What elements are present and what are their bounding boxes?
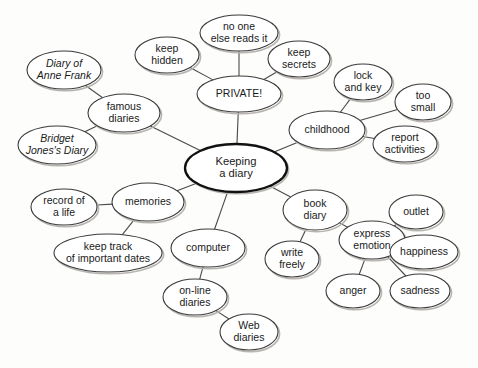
node-label-keeptrack: of important dates (66, 252, 150, 264)
node-label-expressemo: express (354, 227, 391, 239)
node-lockkey[interactable]: lockand key (334, 64, 394, 102)
node-bridget[interactable]: BridgetJones's Diary (18, 126, 98, 166)
node-center[interactable]: Keepinga diary (185, 144, 289, 194)
node-sadness[interactable]: sadness (390, 274, 452, 310)
node-annefrank[interactable]: Diary ofAnne Frank (27, 51, 103, 91)
node-happiness[interactable]: happiness (390, 235, 460, 271)
node-label-famous: diaries (109, 112, 140, 124)
node-label-childhood: childhood (305, 123, 350, 135)
node-label-writefreely: freely (279, 258, 305, 270)
node-label-reportact: report (391, 131, 419, 143)
node-online[interactable]: on-linediaries (163, 279, 229, 317)
edge-center-to-private (237, 112, 238, 144)
node-webdiaries[interactable]: Webdiaries (220, 314, 280, 352)
edge-expressemo-to-anger (359, 259, 365, 275)
node-label-bridget: Jones's Diary (25, 144, 89, 156)
node-childhood[interactable]: childhood (289, 111, 367, 151)
node-label-sadness: sadness (400, 284, 439, 296)
edge-childhood-to-toosmall (360, 109, 398, 120)
node-label-computer: computer (186, 241, 230, 253)
node-label-noone: no one (223, 20, 255, 32)
node-label-keepsecrets: keep (288, 46, 311, 58)
node-label-bookdiary: book (304, 197, 328, 209)
node-label-outlet: outlet (403, 205, 429, 217)
node-label-toosmall: too (416, 89, 431, 101)
node-label-keephidden: hidden (151, 54, 183, 66)
node-label-bridget: Bridget (40, 132, 74, 144)
edge-center-to-famous (150, 126, 200, 151)
node-famous[interactable]: famousdiaries (88, 94, 162, 134)
node-label-online: on-line (179, 284, 211, 296)
node-label-reportact: activities (385, 143, 425, 155)
node-anger[interactable]: anger (326, 274, 382, 310)
node-writefreely[interactable]: writefreely (265, 241, 321, 279)
node-label-memories: memories (125, 195, 171, 207)
node-recordlife[interactable]: record ofa life (31, 189, 99, 227)
edge-memories-to-keeptrack (122, 220, 134, 235)
node-label-recordlife: record of (43, 194, 85, 206)
node-private[interactable]: PRIVATE! (197, 76, 283, 114)
node-bookdiary[interactable]: bookdiary (283, 190, 349, 232)
node-memories[interactable]: memories (112, 183, 186, 223)
node-label-noone: else reads it (211, 32, 268, 44)
edge-center-to-memories (177, 183, 197, 191)
node-label-lockkey: and key (345, 81, 383, 93)
node-label-toosmall: small (411, 101, 436, 113)
node-label-happiness: happiness (400, 245, 448, 257)
node-label-center: Keeping (215, 155, 256, 167)
node-label-center: a diary (219, 167, 253, 179)
edge-private-to-keepsecrets (264, 72, 277, 80)
node-label-webdiaries: diaries (234, 331, 265, 343)
node-label-expressemo: emotion (353, 239, 391, 251)
node-label-writefreely: write (280, 246, 303, 258)
node-label-recordlife: a life (53, 206, 75, 218)
node-toosmall[interactable]: toosmall (395, 84, 453, 122)
mindmap-diagram: Keepinga diaryPRIVATE!no oneelse reads i… (0, 0, 478, 368)
node-label-keeptrack: keep track (84, 240, 133, 252)
edge-childhood-to-lockkey (340, 98, 350, 112)
node-label-private: PRIVATE! (216, 87, 262, 99)
node-label-annefrank: Anne Frank (36, 69, 92, 81)
node-noone[interactable]: no oneelse reads it (200, 15, 280, 53)
node-outlet[interactable]: outlet (389, 195, 445, 231)
node-keeptrack[interactable]: keep trackof important dates (54, 234, 164, 274)
node-keepsecrets[interactable]: keepsecrets (268, 41, 332, 79)
node-label-keephidden: keep (156, 42, 179, 54)
node-label-famous: famous (107, 100, 141, 112)
node-reportact[interactable]: reportactivities (373, 126, 439, 164)
edge-center-to-computer (215, 192, 228, 230)
edge-famous-to-bridget (85, 126, 97, 132)
mindmap-canvas: Keepinga diaryPRIVATE!no oneelse reads i… (0, 0, 478, 368)
node-label-webdiaries: Web (238, 319, 260, 331)
node-label-lockkey: lock (354, 69, 373, 81)
edge-private-to-keephidden (190, 67, 213, 79)
node-label-anger: anger (340, 284, 367, 296)
node-label-bookdiary: diary (304, 209, 328, 221)
node-label-annefrank: Diary of (46, 57, 83, 69)
node-label-keepsecrets: secrets (282, 58, 316, 70)
node-label-online: diaries (180, 296, 211, 308)
node-keephidden[interactable]: keephidden (135, 37, 201, 75)
edge-memories-to-recordlife (97, 204, 112, 205)
node-computer[interactable]: computer (171, 229, 247, 269)
edge-center-to-childhood (274, 142, 298, 152)
